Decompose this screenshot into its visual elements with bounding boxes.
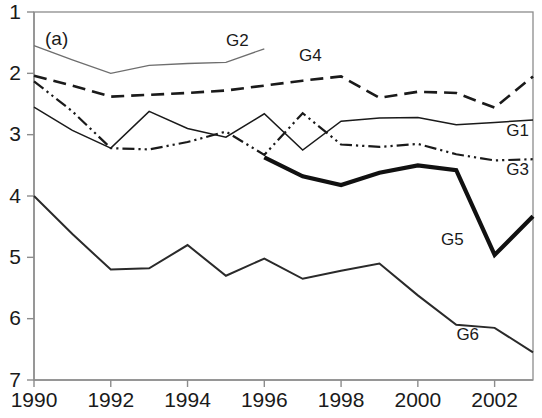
series-label-g6: G6 (456, 325, 479, 344)
y-tick-label: 4 (9, 184, 21, 207)
x-tick-label: 1994 (164, 388, 211, 411)
y-tick-label: 2 (9, 61, 21, 84)
y-tick-label: 3 (9, 122, 21, 145)
series-label-g5: G5 (441, 230, 464, 249)
y-tick-label: 1 (9, 0, 21, 23)
series-label-g4: G4 (299, 46, 322, 65)
x-tick-label: 1990 (11, 388, 58, 411)
panel-label: (a) (45, 28, 68, 49)
series-label-g1: G1 (506, 121, 529, 140)
x-tick-label: 2002 (471, 388, 518, 411)
y-tick-label: 7 (9, 368, 21, 391)
y-tick-label: 6 (9, 306, 21, 329)
y-tick-label: 5 (9, 245, 21, 268)
line-chart: 1234567 1990199219941996199820002002 G1G… (0, 0, 542, 418)
chart-figure: 1234567 1990199219941996199820002002 G1G… (0, 0, 542, 418)
x-tick-label: 2000 (394, 388, 441, 411)
series-label-g2: G2 (226, 31, 249, 50)
x-tick-label: 1992 (87, 388, 134, 411)
x-tick-label: 1996 (241, 388, 288, 411)
series-label-g3: G3 (506, 160, 529, 179)
x-tick-label: 1998 (318, 388, 365, 411)
